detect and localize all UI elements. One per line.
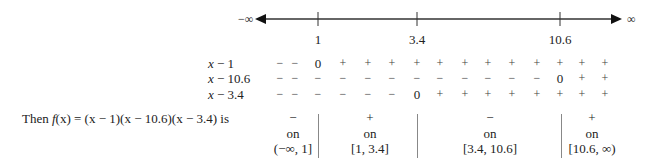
factor-label-x-minus-3-4: x − 3.4 [208, 87, 244, 103]
interval-on: on [463, 126, 517, 142]
sign-cell: − [504, 71, 520, 86]
sign-cell: + [360, 56, 376, 71]
sign-cell: + [335, 56, 351, 71]
sign-cell: + [552, 87, 568, 102]
sign-cell: − [384, 87, 400, 102]
interval-divider [561, 114, 562, 158]
sign-cell: − [287, 56, 303, 71]
interval-divider [417, 114, 418, 158]
interval-section-1: − on (−∞, 1] [274, 110, 312, 157]
sign-cell: − [335, 87, 351, 102]
interval-on: on [351, 126, 389, 142]
factor-label-x-minus-1: x − 1 [208, 56, 234, 72]
neg-infinity-label: −∞ [238, 12, 253, 27]
interval-section-4: + on [10.6, ∞) [568, 110, 615, 157]
interval-divider [318, 114, 319, 158]
sign-cell: − [287, 87, 303, 102]
interval-section-3: − on [3.4, 10.6] [463, 110, 517, 157]
pos-infinity-label: ∞ [627, 12, 636, 27]
sign-cell: 0 [409, 87, 425, 103]
left-arrow-icon [255, 14, 266, 24]
factor-rest: − 1 [214, 56, 234, 71]
sign-cell: + [574, 71, 590, 86]
factor-label-x-minus-10-6: x − 10.6 [208, 71, 250, 87]
interval-sign: − [463, 110, 517, 126]
sign-cell: + [504, 87, 520, 102]
sign-cell: − [432, 71, 448, 86]
sign-cell: + [432, 56, 448, 71]
sign-cell: − [360, 87, 376, 102]
number-line [0, 0, 653, 32]
sign-cell: + [574, 56, 590, 71]
sign-cell: − [310, 87, 326, 102]
interval-section-2: + on [1, 3.4] [351, 110, 389, 157]
tick-label-3-4: 3.4 [409, 32, 425, 48]
sign-cell: − [457, 71, 473, 86]
interval-sign: − [274, 110, 312, 126]
sign-cell: − [529, 71, 545, 86]
summary-expression: (x) = (x − 1)(x − 10.6)(x − 3.4) is [56, 111, 229, 126]
sign-cell: + [457, 56, 473, 71]
interval-sign: + [351, 110, 389, 126]
sign-cell: − [409, 71, 425, 86]
tick-label-1: 1 [315, 32, 322, 48]
sign-cell: + [597, 56, 613, 71]
sign-cell: + [574, 87, 590, 102]
right-arrow-icon [611, 14, 622, 24]
interval-sign: + [568, 110, 615, 126]
interval-range: [1, 3.4] [351, 141, 389, 157]
sign-cell: − [335, 71, 351, 86]
sign-cell: + [457, 87, 473, 102]
sign-cell: + [409, 56, 425, 71]
sign-cell: − [384, 71, 400, 86]
sign-cell: 0 [310, 56, 326, 72]
sign-cell: − [272, 71, 288, 86]
sign-cell: − [360, 71, 376, 86]
interval-range: [10.6, ∞) [568, 141, 615, 157]
summary-then: Then [22, 111, 52, 126]
sign-cell: + [432, 87, 448, 102]
sign-cell: + [504, 56, 520, 71]
tick-label-10-6: 10.6 [549, 32, 572, 48]
summary-statement: Then f(x) = (x − 1)(x − 10.6)(x − 3.4) i… [22, 111, 229, 127]
sign-cell: + [480, 87, 496, 102]
sign-cell: − [272, 87, 288, 102]
factor-rest: − 10.6 [214, 71, 251, 86]
interval-on: on [568, 126, 615, 142]
sign-cell: − [480, 71, 496, 86]
interval-range: [3.4, 10.6] [463, 141, 517, 157]
sign-cell: + [480, 56, 496, 71]
factor-rest: − 3.4 [214, 87, 244, 102]
sign-cell: − [310, 71, 326, 86]
sign-cell: − [272, 56, 288, 71]
interval-on: on [274, 126, 312, 142]
sign-cell: − [287, 71, 303, 86]
sign-cell: + [597, 71, 613, 86]
sign-cell: + [529, 87, 545, 102]
sign-cell: 0 [552, 71, 568, 87]
sign-cell: + [552, 56, 568, 71]
sign-cell: + [529, 56, 545, 71]
sign-cell: + [597, 87, 613, 102]
interval-range: (−∞, 1] [274, 141, 312, 157]
sign-cell: + [384, 56, 400, 71]
